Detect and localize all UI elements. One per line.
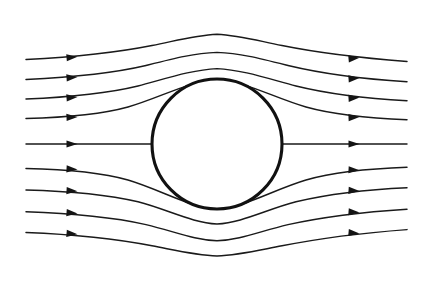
cylinder-obstacle: [152, 79, 282, 209]
flow-diagram-canvas: [0, 0, 433, 285]
flow-diagram-figure: Streamline flow past a circular cylinder: [0, 0, 433, 285]
